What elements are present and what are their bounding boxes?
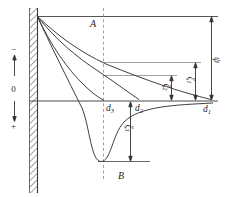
label-plane-B: B	[118, 170, 124, 181]
axis-up-arrow	[13, 55, 16, 76]
axis-down-arrow	[13, 101, 16, 122]
potential-curve-1	[38, 17, 212, 100]
arrowhead-up-icon	[129, 102, 132, 107]
label-plane-A: A	[89, 18, 97, 29]
arrowhead-down-icon	[194, 95, 197, 100]
label-axis-zero: 0	[11, 84, 16, 94]
arrowhead-up-icon	[194, 63, 197, 68]
label-d2: d2	[135, 103, 144, 114]
label-zeta3: ζ3	[123, 124, 134, 132]
label-psi: ψ	[212, 57, 222, 64]
arrowhead-up-icon	[170, 76, 173, 81]
arrowhead-down-icon	[129, 156, 132, 161]
zeta1-dimension-arrow	[194, 63, 197, 100]
figure-canvas: A B d3 d2 d1 ψ ζ1 ζ2 ζ3 − 0 +	[0, 0, 226, 197]
arrowhead-up-icon	[13, 55, 16, 60]
double-layer-diagram: A B d3 d2 d1 ψ ζ1 ζ2 ζ3 − 0 +	[0, 0, 226, 197]
potential-curve-2	[38, 17, 140, 100]
label-axis-positive: +	[11, 121, 16, 131]
arrowhead-down-icon	[170, 95, 173, 100]
label-axis-negative: −	[11, 44, 16, 54]
label-zeta1: ζ1	[185, 76, 196, 83]
label-d3: d3	[106, 103, 115, 114]
label-d1: d1	[203, 104, 211, 115]
arrowhead-up-icon	[210, 17, 213, 22]
